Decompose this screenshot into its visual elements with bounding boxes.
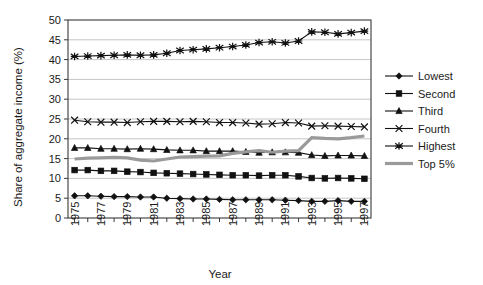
legend-label: Fourth	[418, 123, 450, 135]
x-axis-tick-label: 1995	[332, 202, 344, 226]
data-point-marker	[362, 176, 368, 182]
y-axis-tick-label: 45	[49, 34, 61, 46]
x-axis-tick-label: 1977	[95, 202, 107, 226]
data-point-marker	[164, 170, 170, 176]
y-axis-tick-label: 5	[55, 192, 61, 204]
legend-label: Second	[418, 88, 455, 100]
data-point-marker	[190, 171, 196, 177]
x-axis-tick-label: 1979	[121, 202, 133, 226]
data-point-marker	[85, 167, 91, 173]
line-chart: 05101520253035404550 1975197719791981198…	[0, 0, 483, 285]
data-point-marker	[309, 175, 315, 181]
data-point-marker	[296, 174, 302, 180]
x-axis-tick-label: 1991	[279, 202, 291, 226]
x-axis-tick-label: 1981	[148, 202, 160, 226]
y-axis-tick-label: 10	[49, 172, 61, 184]
legend-label: Lowest	[418, 70, 453, 82]
y-axis-tick-label: 25	[49, 113, 61, 125]
y-axis-tick-label: 40	[49, 54, 61, 66]
x-axis-title: Year	[208, 268, 231, 280]
chart-figure: 05101520253035404550 1975197719791981198…	[0, 0, 483, 285]
x-axis-tick-label: 1997	[358, 202, 370, 226]
y-axis-tick-label: 30	[49, 93, 61, 105]
y-axis-tick-label: 35	[49, 73, 61, 85]
data-point-marker	[396, 91, 402, 97]
data-point-marker	[151, 170, 157, 176]
data-point-marker	[217, 172, 223, 178]
data-point-marker	[98, 168, 104, 174]
x-axis-tick-label: 1989	[253, 202, 265, 226]
data-point-marker	[322, 176, 328, 182]
data-point-marker	[269, 172, 275, 178]
x-axis-tick-label: 1993	[306, 202, 318, 226]
y-axis-tick-label: 20	[49, 133, 61, 145]
x-axis-tick-label: 1983	[174, 202, 186, 226]
data-point-marker	[138, 169, 144, 175]
data-point-marker	[243, 172, 249, 178]
data-point-marker	[177, 171, 183, 177]
data-point-marker	[111, 168, 117, 174]
legend-label: Third	[418, 105, 443, 117]
data-point-marker	[72, 167, 78, 173]
data-point-marker	[230, 172, 236, 178]
y-axis-tick-label: 15	[49, 153, 61, 165]
data-point-marker	[335, 175, 341, 181]
data-point-marker	[348, 176, 354, 182]
data-point-marker	[283, 172, 289, 178]
y-axis-tick-label: 50	[49, 14, 61, 26]
x-axis-tick-label: 1975	[69, 202, 81, 226]
y-axis-title: Share of aggregate income (%)	[12, 47, 24, 207]
data-point-marker	[256, 173, 262, 179]
x-axis-tick-label: 1985	[200, 202, 212, 226]
legend-label: Highest	[418, 140, 455, 152]
legend-label: Top 5%	[418, 158, 455, 170]
y-axis-tick-label: 0	[55, 212, 61, 224]
x-axis-tick-label: 1987	[227, 202, 239, 226]
chart-background	[0, 0, 483, 285]
data-point-marker	[124, 169, 130, 175]
data-point-marker	[204, 172, 210, 178]
